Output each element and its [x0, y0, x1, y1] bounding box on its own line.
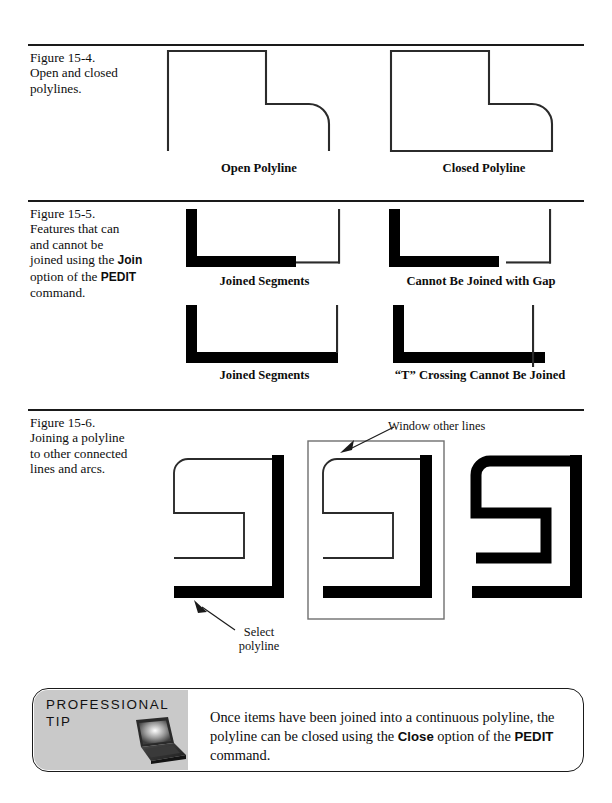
select-polyline-label-line-2: polyline [224, 639, 294, 653]
joined-segments-label-2: Joined Segments [187, 368, 342, 383]
divider-fig-15-6 [28, 409, 584, 411]
cannot-join-gap-label: Cannot Be Joined with Gap [386, 274, 576, 289]
window-other-lines-label: Window other lines [388, 419, 485, 433]
closed-polyline-drawing [389, 49, 574, 153]
figure-15-6-shape-left [166, 455, 286, 610]
figure-15-5-caption-line-2: and cannot be [30, 237, 175, 252]
figure-15-5-caption: Figure 15-5. Features that can and canno… [30, 206, 175, 300]
select-polyline-leader-arrow [193, 600, 237, 632]
open-polyline-drawing [166, 49, 351, 153]
figure-15-6-shape-right [464, 455, 586, 610]
closed-polyline-label: Closed Polyline [404, 161, 564, 176]
caption-bold-join: Join [118, 253, 143, 267]
joined-segments-drawing-2 [186, 305, 341, 363]
figure-15-6-caption-line-3: lines and arcs. [30, 461, 175, 476]
t-crossing-drawing [393, 305, 563, 367]
figure-15-6-caption-line-2: to other connected [30, 446, 175, 461]
figure-15-5-caption-line-5: command. [30, 285, 175, 300]
figure-15-6-caption-line-1: Joining a polyline [30, 430, 175, 445]
figure-15-5-caption-line-4: option of the PEDIT [30, 269, 175, 285]
figure-15-4-caption-line-1: Open and closed [30, 65, 175, 80]
tip-body-middle: option of the [434, 728, 515, 744]
tip-body-suffix: command. [210, 747, 270, 763]
caption-text-option-of-the: option of the [30, 269, 101, 284]
joined-segments-label-1: Joined Segments [187, 274, 342, 289]
document-page: Figure 15-4. Open and closed polylines. … [0, 0, 612, 803]
caption-text-joined-using: joined using the [30, 252, 118, 267]
professional-tip-body: Once items have been joined into a conti… [210, 708, 602, 765]
divider-fig-15-5 [28, 200, 584, 202]
figure-15-6-shape-middle [307, 440, 447, 622]
figure-15-5-caption-line-3: joined using the Join [30, 252, 175, 268]
open-polyline-label: Open Polyline [184, 161, 334, 176]
professional-tip-heading-line-1: PROFESSIONAL [46, 696, 169, 713]
cannot-join-gap-drawing [389, 209, 553, 267]
divider-top [28, 44, 584, 46]
figure-15-4-number: Figure 15-4. [30, 50, 175, 65]
figure-15-6-caption: Figure 15-6. Joining a polyline to other… [30, 415, 175, 477]
joined-segments-drawing-1 [186, 209, 341, 267]
figure-15-4-caption-line-2: polylines. [30, 81, 175, 96]
figure-15-5-caption-line-1: Features that can [30, 221, 175, 236]
figure-15-6-number: Figure 15-6. [30, 415, 175, 430]
figure-15-4-caption: Figure 15-4. Open and closed polylines. [30, 50, 175, 96]
window-other-lines-leader-arrow [338, 425, 396, 453]
laptop-icon [130, 716, 188, 764]
tip-body-bold-close: Close [398, 729, 434, 744]
tip-body-bold-pedit: PEDIT [515, 729, 554, 744]
figure-15-5-number: Figure 15-5. [30, 206, 175, 221]
professional-tip-box: PROFESSIONAL TIP [32, 688, 584, 772]
t-crossing-label: “T” Crossing Cannot Be Joined [380, 368, 580, 383]
caption-bold-pedit: PEDIT [101, 270, 136, 284]
